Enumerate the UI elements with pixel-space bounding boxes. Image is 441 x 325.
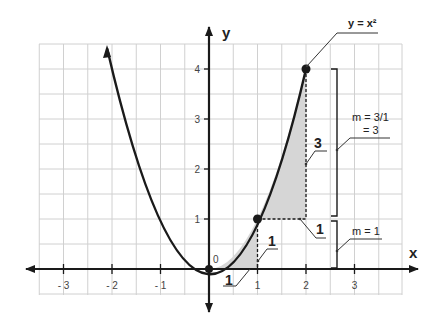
y-tick-label: 1 [194, 214, 200, 225]
point-origin [205, 265, 213, 273]
x-tick-label: 1 [255, 280, 261, 291]
rise-label-upper: 3 [314, 135, 322, 151]
y-tick-label: 4 [194, 64, 200, 75]
origin-label: 0 [213, 254, 219, 265]
run-label-lower: 1 [225, 272, 233, 288]
curve-label: y = x² [348, 17, 377, 29]
y-tick-label: 3 [194, 114, 200, 125]
x-tick-label: - 3 [58, 280, 70, 291]
upper-slope-annotation: m = 3/1 = 3 [336, 111, 390, 151]
parabola-diagram: - 3 - 2 - 1 1 2 3 1 2 3 4 y x 0 y = x² m… [0, 0, 441, 325]
lower-slope-annotation: m = 1 [336, 225, 382, 252]
rise-label-lower: 1 [268, 233, 276, 249]
lower-slope-label: m = 1 [352, 225, 380, 237]
x-tick-label: - 2 [106, 280, 118, 291]
parabola-curve [107, 49, 306, 275]
run-label-upper: 1 [316, 221, 324, 237]
curve-label-callout: y = x² [306, 17, 378, 67]
x-tick-label: 3 [352, 280, 358, 291]
upper-slope-line1: m = 3/1 [352, 111, 389, 123]
upper-slope-line2: = 3 [363, 124, 379, 136]
y-axis-label: y [222, 24, 231, 41]
x-tick-label: 2 [303, 280, 309, 291]
point-1-1 [253, 215, 262, 224]
x-tick-labels: - 3 - 2 - 1 1 2 3 [58, 280, 358, 291]
x-axis-label: x [409, 244, 418, 261]
y-tick-label: 2 [194, 164, 200, 175]
curve-arrowhead-icon [103, 45, 111, 58]
x-tick-label: - 1 [155, 280, 167, 291]
grid [39, 44, 402, 295]
